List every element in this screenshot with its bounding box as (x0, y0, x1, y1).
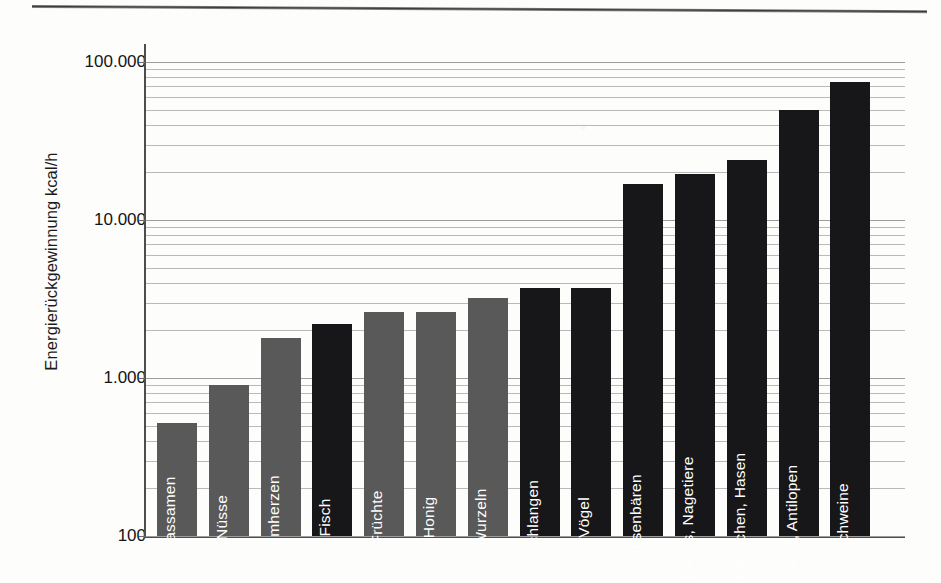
bar-series: GrassamenNüssePalmherzenFischFrüchteHoni… (146, 44, 905, 536)
bar[interactable]: Nüsse (209, 385, 249, 536)
bar-category-label: Wurzeln (472, 489, 488, 547)
bar-category-label: Nasenbären (628, 475, 644, 561)
bar[interactable]: Wurzeln (468, 298, 508, 536)
y-tick-mark (139, 536, 146, 537)
bar[interactable]: Honig (416, 312, 456, 536)
bar[interactable]: Wild, Antilopen (779, 110, 819, 536)
plot-area: GrassamenNüssePalmherzenFischFrüchteHoni… (146, 44, 905, 536)
y-tick-mark (139, 220, 146, 221)
y-tick-mark (139, 378, 146, 379)
bar[interactable]: Schlangen (520, 288, 560, 536)
bar[interactable]: Grassamen (157, 423, 197, 536)
bar-category-label: Honig (421, 497, 437, 539)
bar-category-label: Schweine (835, 484, 851, 553)
bar-category-label: Wild, Antilopen (783, 465, 799, 571)
bar-category-label: Schlangen (524, 480, 540, 555)
bar[interactable]: Fisch (312, 324, 352, 536)
y-tick-label: 100.000 (85, 52, 146, 72)
bar[interactable]: Vögel (571, 288, 611, 536)
y-tick-mark (139, 62, 146, 63)
bar[interactable]: Schweine (830, 82, 870, 536)
bar[interactable]: Palmherzen (261, 338, 301, 536)
bar-category-label: Kaninchen, Hasen (731, 453, 747, 583)
bar-category-label: Fisch (317, 499, 333, 537)
bar-category-label: Vögel (576, 498, 592, 539)
bar-category-label: Früchte (369, 491, 385, 545)
bar[interactable]: Nasenbären (623, 184, 663, 536)
bar-category-label: Palmherzen (265, 476, 281, 561)
bar[interactable]: Pakas, Nagetiere (675, 174, 715, 536)
bar-category-label: Nüsse (213, 496, 229, 541)
bar[interactable]: Früchte (364, 312, 404, 536)
bar[interactable]: Kaninchen, Hasen (727, 160, 767, 536)
bar-category-label: Pakas, Nagetiere (680, 457, 696, 579)
bar-category-label: Grassamen (162, 477, 178, 559)
